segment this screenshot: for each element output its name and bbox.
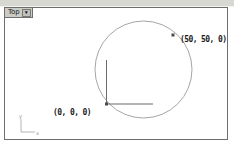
cad-window: y x (0, 0, 0) (50, 50, 0) Top ▼ xyxy=(0,0,234,148)
origin-coordinate-label: (0, 0, 0) xyxy=(53,108,91,118)
drawing-canvas[interactable]: y x xyxy=(5,8,229,141)
ucs-y-label: y xyxy=(19,113,22,120)
window-top-band xyxy=(0,0,234,7)
viewport-tab-label: Top xyxy=(8,8,20,17)
viewport-tab[interactable]: Top ▼ xyxy=(4,7,33,18)
ucs-x-label: x xyxy=(36,130,39,136)
viewport-menu-dropdown[interactable]: ▼ xyxy=(22,9,31,17)
circle-geometry[interactable] xyxy=(95,21,192,118)
circle-point-coordinate-label: (50, 50, 0) xyxy=(180,35,226,45)
circle-point-marker[interactable] xyxy=(172,34,175,37)
origin-point-marker[interactable] xyxy=(105,103,108,106)
ucs-axis-icon: y x xyxy=(19,113,39,136)
chevron-down-icon: ▼ xyxy=(25,10,28,15)
viewport-top[interactable]: y x (0, 0, 0) (50, 50, 0) Top ▼ xyxy=(4,7,228,140)
